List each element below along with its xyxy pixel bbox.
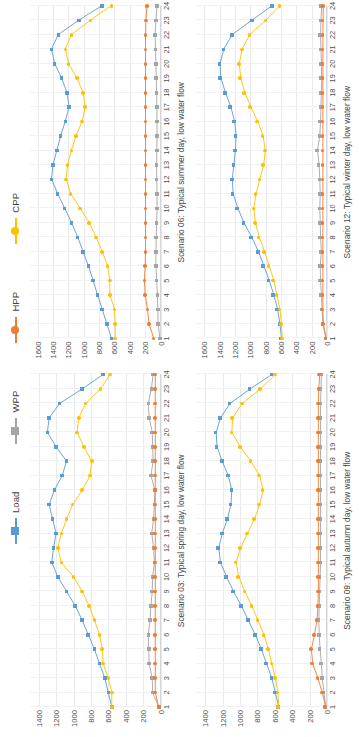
data-point-cpp bbox=[276, 691, 280, 695]
legend-item-load[interactable]: Load bbox=[10, 492, 21, 545]
x-tick-label: 4 bbox=[328, 662, 337, 666]
plot-canvas bbox=[197, 375, 328, 708]
legend-item-wpp[interactable]: WPP bbox=[10, 391, 21, 444]
data-point-wpp bbox=[147, 647, 151, 651]
x-tick-label: 5 bbox=[162, 279, 171, 283]
data-point-cpp bbox=[99, 387, 103, 391]
x-tick-label: 6 bbox=[162, 633, 171, 637]
data-point-cpp bbox=[276, 705, 280, 709]
data-point-hpp bbox=[153, 416, 157, 420]
data-point-wpp bbox=[154, 48, 158, 52]
data-point-hpp bbox=[321, 264, 325, 268]
data-point-hpp bbox=[143, 293, 147, 297]
marker-layer bbox=[197, 375, 328, 708]
data-point-cpp bbox=[270, 662, 274, 666]
data-point-cpp bbox=[108, 373, 112, 377]
data-point-hpp bbox=[321, 105, 325, 109]
data-point-load bbox=[56, 192, 60, 196]
x-tick-label: 12 bbox=[328, 544, 337, 552]
x-tick-label: 2 bbox=[162, 690, 171, 694]
legend-item-cpp[interactable]: CPP bbox=[10, 193, 21, 244]
data-point-load bbox=[239, 604, 243, 608]
data-point-hpp bbox=[144, 62, 148, 66]
x-tick-label: 9 bbox=[328, 589, 337, 593]
data-point-load bbox=[230, 33, 234, 37]
data-point-load bbox=[101, 373, 105, 377]
data-point-hpp bbox=[321, 322, 325, 326]
data-point-cpp bbox=[230, 416, 234, 420]
data-point-load bbox=[218, 62, 222, 66]
data-point-hpp bbox=[321, 33, 325, 37]
data-point-cpp bbox=[83, 105, 87, 109]
data-point-hpp bbox=[153, 662, 157, 666]
data-point-load bbox=[226, 474, 230, 478]
data-point-hpp bbox=[309, 647, 313, 651]
x-tick-label: 14 bbox=[328, 515, 337, 523]
data-point-hpp bbox=[316, 590, 320, 594]
data-point-cpp bbox=[66, 163, 70, 167]
data-point-hpp bbox=[321, 308, 325, 312]
data-point-cpp bbox=[273, 373, 277, 377]
data-point-hpp bbox=[321, 178, 325, 182]
data-point-cpp bbox=[69, 192, 73, 196]
x-tick-label: 16 bbox=[328, 118, 337, 126]
data-point-load bbox=[93, 647, 97, 651]
data-point-cpp bbox=[245, 532, 249, 536]
data-point-hpp bbox=[153, 517, 157, 521]
x-tick-label: 2 bbox=[328, 322, 337, 326]
subplot-grid: 0200400600800100012001400123456789101112… bbox=[26, 0, 359, 737]
data-point-load bbox=[214, 431, 218, 435]
marker-layer bbox=[197, 6, 328, 339]
data-point-wpp bbox=[155, 4, 159, 8]
x-tick-label: 23 bbox=[328, 385, 337, 393]
data-point-cpp bbox=[257, 503, 261, 507]
data-point-hpp bbox=[144, 250, 148, 254]
data-point-cpp bbox=[278, 308, 282, 312]
data-point-hpp bbox=[153, 373, 157, 377]
data-point-load bbox=[218, 561, 222, 565]
data-point-cpp bbox=[113, 322, 117, 326]
data-point-load bbox=[215, 445, 219, 449]
data-point-load bbox=[256, 250, 260, 254]
x-tick-label: 22 bbox=[162, 31, 171, 39]
data-point-hpp bbox=[316, 676, 320, 680]
x-tick-label: 24 bbox=[162, 370, 171, 378]
data-point-wpp bbox=[155, 163, 159, 167]
x-tick-label: 16 bbox=[162, 118, 171, 126]
y-tick-label: 1400 bbox=[201, 710, 210, 727]
x-tick-label: 10 bbox=[162, 204, 171, 212]
data-point-wpp bbox=[155, 192, 159, 196]
x-tick-label: 8 bbox=[328, 235, 337, 239]
data-point-load bbox=[259, 647, 263, 651]
x-tick-label: 7 bbox=[162, 618, 171, 622]
data-point-wpp bbox=[147, 633, 151, 637]
y-tick-label: 0 bbox=[323, 342, 332, 346]
data-point-load bbox=[222, 48, 226, 52]
data-point-hpp bbox=[321, 4, 325, 8]
data-point-hpp bbox=[321, 48, 325, 52]
x-tick-label: 11 bbox=[162, 559, 171, 567]
data-point-cpp bbox=[84, 402, 88, 406]
plot-canvas bbox=[30, 6, 161, 339]
x-tick-label: 15 bbox=[328, 500, 337, 508]
data-point-hpp bbox=[143, 264, 147, 268]
data-point-hpp bbox=[153, 402, 157, 406]
data-point-cpp bbox=[110, 691, 114, 695]
data-point-load bbox=[218, 416, 222, 420]
data-point-hpp bbox=[321, 279, 325, 283]
data-point-cpp bbox=[78, 207, 82, 211]
x-tick-label: 22 bbox=[328, 31, 337, 39]
legend-item-hpp[interactable]: HPP bbox=[10, 292, 21, 343]
data-point-hpp bbox=[144, 134, 148, 138]
data-point-load bbox=[54, 532, 58, 536]
data-point-hpp bbox=[153, 488, 157, 492]
data-point-load bbox=[87, 264, 91, 268]
data-point-load bbox=[47, 416, 51, 420]
data-point-load bbox=[228, 402, 232, 406]
data-point-cpp bbox=[278, 4, 282, 8]
data-point-cpp bbox=[230, 431, 234, 435]
data-point-wpp bbox=[149, 604, 153, 608]
data-point-cpp bbox=[89, 19, 93, 23]
data-point-wpp bbox=[147, 662, 151, 666]
x-tick-label: 10 bbox=[328, 204, 337, 212]
